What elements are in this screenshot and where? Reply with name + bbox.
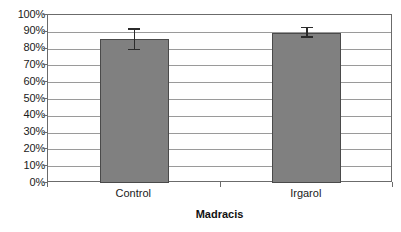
y-axis-tick-label: 90% bbox=[1, 25, 45, 36]
y-axis-tick-label: 80% bbox=[1, 42, 45, 53]
y-axis-tick-label: 20% bbox=[1, 143, 45, 154]
y-axis-tick-label: 60% bbox=[1, 76, 45, 87]
x-axis-title: Madracis bbox=[47, 208, 392, 220]
y-axis-tick-label: 30% bbox=[1, 126, 45, 137]
bar bbox=[100, 39, 169, 184]
error-bar bbox=[128, 28, 140, 50]
y-axis-tick-label: 70% bbox=[1, 59, 45, 70]
y-axis-tick-label: 50% bbox=[1, 93, 45, 104]
y-axis-tick-label: 40% bbox=[1, 109, 45, 120]
y-axis-tick-labels: 100%90%80%70%60%50%40%30%20%10%0% bbox=[0, 0, 45, 232]
x-axis-category-label: Control bbox=[47, 187, 220, 199]
plot-area bbox=[47, 14, 392, 182]
error-bar-stem bbox=[134, 28, 136, 50]
error-bar bbox=[301, 27, 313, 38]
x-axis-category-label: Irgarol bbox=[220, 187, 393, 199]
y-axis-tick-label: 100% bbox=[1, 9, 45, 20]
error-bar-cap-bottom bbox=[128, 49, 140, 51]
x-axis-tick-mark bbox=[392, 182, 393, 187]
error-bar-cap-bottom bbox=[301, 36, 313, 38]
y-axis-tick-label: 0% bbox=[1, 177, 45, 188]
bar bbox=[272, 33, 341, 183]
y-axis-tick-label: 10% bbox=[1, 160, 45, 171]
bar-chart: 100%90%80%70%60%50%40%30%20%10%0% Contro… bbox=[0, 0, 401, 232]
